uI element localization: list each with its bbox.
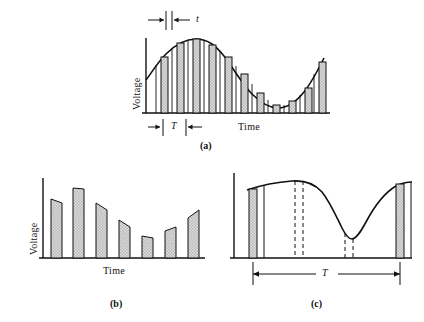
panel-c-caption: (c) — [311, 298, 322, 309]
panel-b-xlabel: Time — [103, 265, 125, 276]
panel-c-annotation-T: T — [322, 267, 328, 278]
panel-a-xlabel: Time — [238, 121, 260, 132]
panel-a-caption: (a) — [200, 140, 212, 151]
panel-a-annotation-t: t — [196, 13, 199, 24]
panel-a-annotation-T: T — [171, 120, 177, 131]
panel-b-ylabel: Voltage — [28, 223, 39, 255]
panel-b-caption: (b) — [110, 298, 122, 309]
panel-a-ylabel: Voltage — [131, 78, 142, 110]
figure-canvas — [0, 0, 424, 322]
